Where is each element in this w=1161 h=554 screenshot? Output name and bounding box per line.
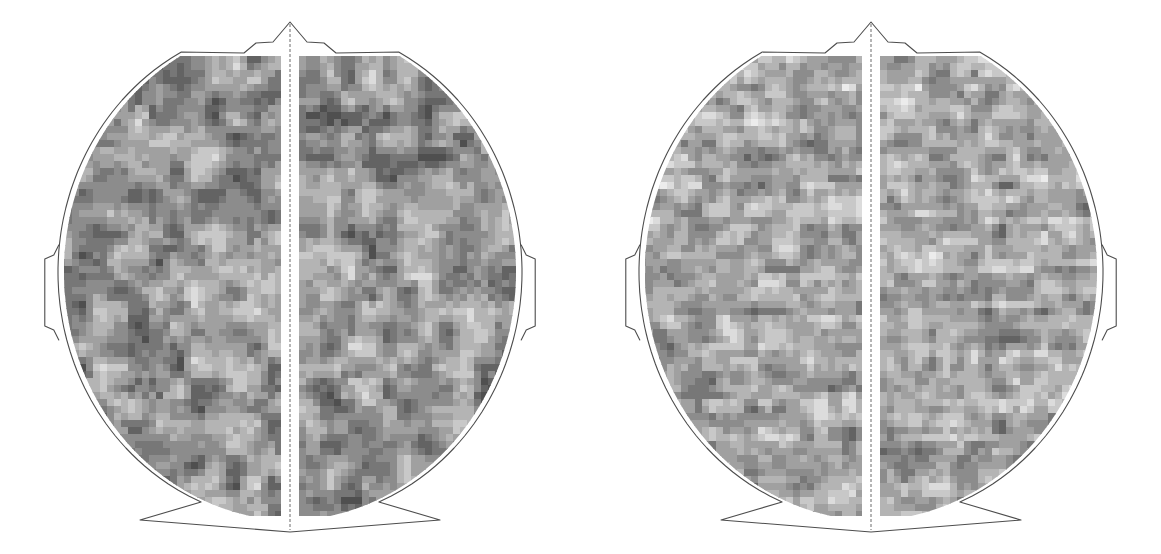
head-map-left[interactable] <box>0 0 580 554</box>
topographic-map-figure <box>0 0 1161 554</box>
head-map-left-svg <box>0 0 580 554</box>
head-map-right[interactable] <box>581 0 1161 554</box>
head-map-right-svg <box>581 0 1161 554</box>
